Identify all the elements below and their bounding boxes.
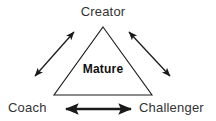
- node-label-creator: Creator: [81, 5, 126, 18]
- node-label-coach: Coach: [8, 101, 47, 114]
- arrow-coach-creator: [35, 32, 74, 76]
- arrow-creator-challenger: [129, 32, 170, 76]
- triangle-diagram: Creator Coach Challenger Mature: [0, 0, 216, 121]
- node-label-challenger: Challenger: [139, 101, 204, 114]
- center-label-mature: Mature: [83, 63, 124, 75]
